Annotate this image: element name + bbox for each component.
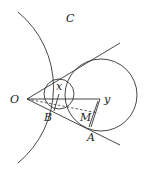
label-a: A bbox=[86, 131, 95, 144]
label-c: C bbox=[66, 12, 75, 25]
segment-y-a bbox=[91, 99, 100, 127]
label-m: M bbox=[79, 111, 92, 124]
label-y: y bbox=[103, 93, 111, 106]
label-o: O bbox=[10, 93, 19, 106]
label-x: x bbox=[56, 80, 63, 93]
arc-c bbox=[18, 12, 54, 163]
geometry-diagram: O C x y B M A bbox=[0, 0, 149, 176]
large-circle bbox=[65, 59, 137, 131]
label-b: B bbox=[43, 111, 52, 124]
